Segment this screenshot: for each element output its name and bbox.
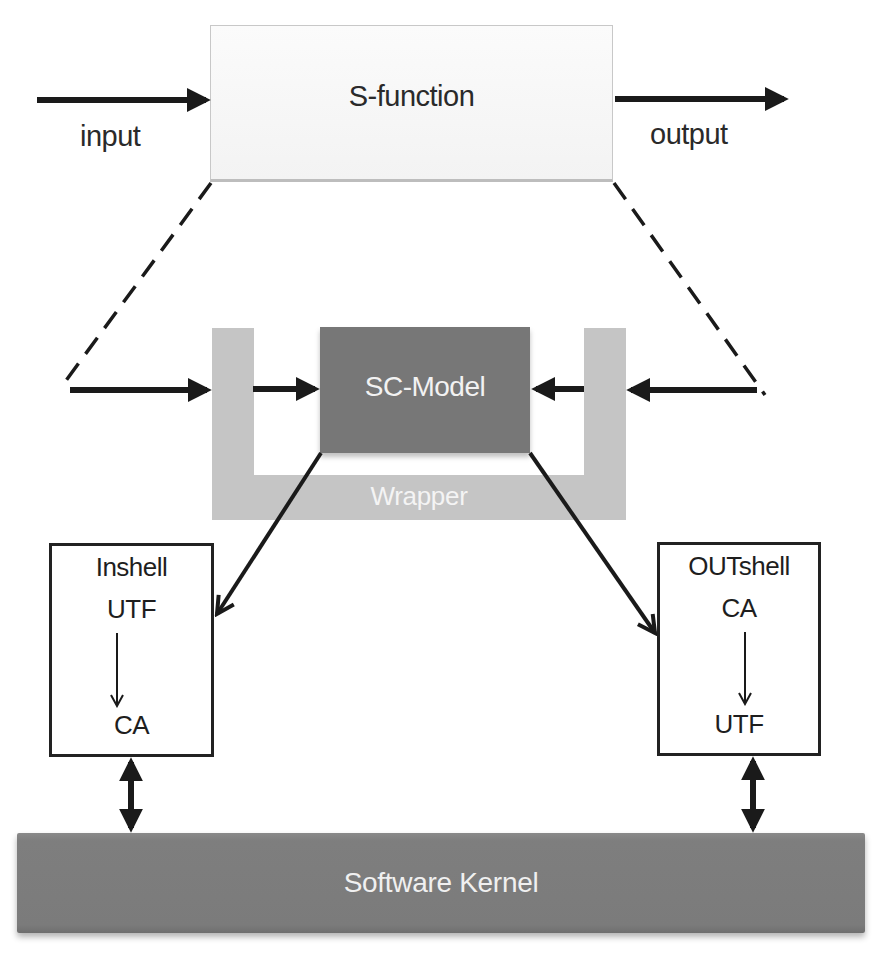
outshell-from-label: CA [660,593,818,624]
inshell-from-label: UTF [52,594,211,625]
zoom-dashed-line-left [62,183,211,386]
sc-model-label: SC-Model [320,371,530,403]
outshell-box: OUTshell CA UTF [657,542,821,756]
outshell-to-label: UTF [660,709,818,740]
software-kernel-label: Software Kernel [17,867,865,899]
wrapper-label: Wrapper [212,481,626,512]
s-function-label: S-function [210,80,613,113]
output-label: output [650,118,728,151]
inshell-title: Inshell [52,552,211,583]
zoom-dashed-line-right [614,183,765,395]
inshell-box: Inshell UTF CA [49,543,214,757]
input-label: input [80,120,140,153]
outshell-title: OUTshell [660,551,818,582]
inshell-to-label: CA [52,710,211,741]
